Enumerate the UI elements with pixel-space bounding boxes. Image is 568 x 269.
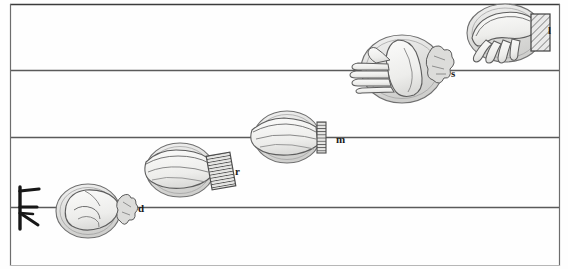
figure-canvas: d r m s l [0, 0, 568, 269]
sign-label-r: r [235, 166, 240, 177]
sign-label-l: l [548, 25, 551, 36]
hand-sign-r [145, 143, 236, 197]
fork-clef-glyph [20, 187, 39, 229]
staff-diagram-svg [0, 0, 568, 269]
cuff-hatched-r [206, 152, 236, 190]
cuff-blob-d [117, 194, 138, 224]
sign-label-m: m [336, 134, 345, 145]
sign-label-d: d [138, 203, 144, 214]
hand-sign-m [251, 111, 326, 163]
fingers-s [350, 63, 394, 93]
cuff-ribbed-m [317, 122, 326, 153]
hand-sign-s [350, 35, 454, 103]
hand-sign-d [56, 184, 138, 238]
cuff-hatched-rect-r [206, 152, 236, 190]
sign-label-s: s [451, 68, 455, 79]
cuff-blob-s [426, 46, 454, 83]
hand-sign-l [467, 4, 550, 63]
